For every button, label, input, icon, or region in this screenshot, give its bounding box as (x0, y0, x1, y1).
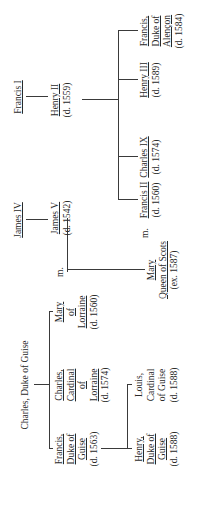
name-line: of (66, 295, 78, 330)
node-charles-ix: Charles IX (d. 1574) (139, 136, 162, 177)
name-line: Louis, (134, 368, 146, 403)
name-line: Guise (77, 432, 89, 467)
connector-line (118, 30, 138, 31)
date-line: (d. 1560) (89, 295, 101, 330)
name-line: Mary (146, 241, 158, 299)
name-line: Duke of (151, 14, 163, 49)
node-charles-cardinal-of-lorraine: Charles, Cardinal of Lorraine (d. 1574) (54, 368, 112, 403)
family-tree-diagram: Charles, Duke of Guise Francis, Duke of … (0, 0, 201, 512)
node-louis-cardinal-of-guise: Louis, Cardinal of Guise (d. 1588) (134, 368, 180, 403)
name-line: Lorraine (89, 368, 101, 403)
connector-line (127, 384, 132, 385)
name-line: Francis II (139, 182, 151, 219)
node-henry-ii: Henry II (d. 1559) (50, 83, 73, 118)
node-francis-duke-of-alencon: Francis, Duke of Alençon (d. 1584) (139, 14, 185, 49)
node-henry-duke-of-guise: Henry, Duke of Guise (d. 1588) (134, 432, 180, 467)
date-line: (d. 1563) (89, 432, 101, 467)
connector-line (101, 448, 128, 449)
connector-line (118, 156, 138, 157)
connector-line (49, 448, 53, 449)
node-mary-of-lorraine: Mary of Lorraine (d. 1560) (54, 295, 100, 330)
connector-line (118, 199, 138, 200)
connector-line (67, 269, 145, 270)
date-line: (d. 1584) (174, 14, 186, 49)
date-line: (d. 1588) (169, 368, 181, 403)
name-line: Charles, (54, 368, 66, 403)
marriage-label: m. (140, 228, 151, 238)
connector-line (82, 99, 118, 100)
node-mary-queen-of-scots: Mary Queen of Scots (ex. 1587) (146, 241, 181, 299)
name-line: Cardinal (66, 368, 78, 403)
name-line: James V (50, 201, 62, 236)
name-line: Duke of (146, 432, 158, 467)
name-line: Queen of Scots (158, 241, 170, 299)
date-line: (ex. 1587) (169, 241, 181, 299)
name-line: Francis I (13, 80, 25, 114)
node-francis-duke-of-guise: Francis, Duke of Guise (d. 1563) (54, 432, 100, 467)
connector-line (49, 311, 53, 312)
connector-line (26, 219, 48, 220)
name-line: Cardinal (146, 368, 158, 403)
name-line: Charles IX (139, 136, 151, 177)
name-line: Mary (54, 295, 66, 330)
name-line: Alençon (162, 14, 174, 49)
date-line: (d. 1574) (151, 136, 163, 177)
name-line: Lorraine (77, 295, 89, 330)
name-line: James IV (13, 202, 25, 238)
node-charles-duke-of-guise: Charles, Duke of Guise (20, 340, 32, 429)
node-henry-iii: Henry III (d. 1589) (139, 62, 162, 98)
name-line: Francis, (54, 432, 66, 467)
connector-line (127, 448, 132, 449)
date-line: (d. 1560) (151, 182, 163, 219)
date-line: (d. 1589) (151, 62, 163, 98)
connector-line (34, 384, 49, 385)
connector-line (49, 311, 50, 449)
connector-line (26, 96, 48, 97)
date-line: (d. 1559) (62, 83, 74, 118)
date-line: (d. 1588) (169, 432, 181, 467)
name-line: Duke of (66, 432, 78, 467)
node-james-v: James V (d. 1542) (50, 201, 73, 236)
node-label: Charles, Duke of Guise (20, 340, 32, 429)
node-james-iv: James IV (13, 202, 25, 238)
name-line: of (77, 368, 89, 403)
connector-line (118, 79, 138, 80)
name-line: Henry, (134, 432, 146, 467)
date-line: (d. 1542) (62, 201, 74, 236)
name-line: Henry III (139, 62, 151, 98)
date-line: (d. 1574) (100, 368, 112, 403)
name-line: of Guise (157, 368, 169, 403)
marriage-label: m. (55, 267, 66, 277)
name-line: Henry II (50, 83, 62, 118)
connector-line (118, 30, 119, 200)
node-francis-i: Francis I (13, 80, 25, 114)
node-francis-ii: Francis II (d. 1560) (139, 182, 162, 219)
name-line: Guise (157, 432, 169, 467)
name-line: Francis, (139, 14, 151, 49)
connector-line (127, 385, 128, 449)
